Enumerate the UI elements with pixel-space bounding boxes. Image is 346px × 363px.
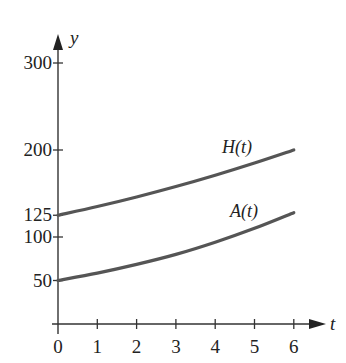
y-tick-label: 200 [24,139,53,160]
x-tick-label: 4 [210,336,220,357]
x-tick-label: 6 [289,336,299,357]
y-ticks: 50100125200300 [24,52,64,291]
curve-label-a: A(t) [229,201,258,222]
chart: y t 50100125200300 0123456 H(t) A(t) [0,0,346,363]
curve-label-h: H(t) [221,137,252,158]
curve-a [58,213,294,281]
x-tick-label: 2 [132,336,142,357]
x-tick-label: 0 [53,336,63,357]
y-tick-label: 300 [24,52,53,73]
x-tick-label: 3 [171,336,181,357]
curve-h [58,150,294,215]
x-axis-label: t [330,313,336,334]
x-tick-label: 5 [250,336,260,357]
y-axis-label: y [68,27,79,48]
y-axis-arrow-icon [53,34,63,50]
x-tick-label: 1 [93,336,103,357]
x-axis-arrow-icon [309,319,326,329]
y-tick-label: 100 [24,226,53,247]
y-tick-label: 125 [24,204,53,225]
y-tick-label: 50 [33,270,52,291]
x-ticks: 0123456 [53,319,298,357]
